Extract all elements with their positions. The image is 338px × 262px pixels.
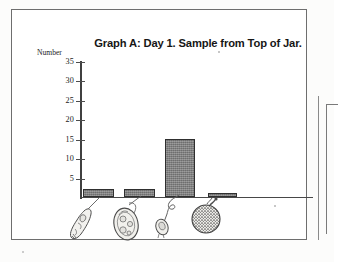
y-tick-label-30: 30 [52, 76, 74, 85]
y-tick-25 [76, 101, 85, 102]
y-tick-label-35: 35 [52, 57, 74, 66]
scan-speck [218, 51, 220, 53]
y-tick-label-15: 15 [52, 135, 74, 144]
chart-title: Graph A: Day 1. Sample from Top of Jar. [84, 37, 312, 49]
y-tick-15 [76, 140, 85, 141]
y-axis-label: Number [37, 48, 62, 57]
scan-speck [274, 205, 276, 207]
y-tick-label-25: 25 [52, 96, 74, 105]
y-tick-label-10: 10 [52, 154, 74, 163]
adjacent-panel-rule [318, 96, 319, 240]
y-tick-20 [76, 120, 85, 121]
y-tick-30 [76, 81, 85, 82]
bar-organism-3 [165, 139, 195, 197]
graph-panel: Graph A: Day 1. Sample from Top of Jar. … [11, 9, 307, 240]
scan-speck [22, 251, 24, 253]
y-tick-label-20: 20 [52, 115, 74, 124]
y-tick-35 [76, 62, 85, 63]
y-tick-label-5: 5 [52, 174, 74, 183]
y-tick-10 [76, 159, 85, 160]
adjacent-panel-fragment [326, 104, 338, 234]
specimen-drawing-organism-4 [186, 195, 230, 241]
y-tick-5 [76, 179, 85, 180]
